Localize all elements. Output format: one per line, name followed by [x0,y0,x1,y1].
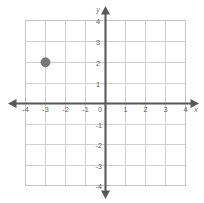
y-tick-label: 4 [96,17,100,26]
x-axis-left-arrow-icon [8,99,17,108]
y-tick-label: 1 [96,80,100,89]
origin-label: 0 [98,105,102,114]
coordinate-grid-svg: -4 -3 -2 -1 0 1 2 3 4 4 3 2 1 -1 -2 -3 -… [0,0,204,203]
y-tick-label: 2 [96,59,100,68]
y-tick-label: -3 [96,162,102,171]
x-axis-name: x [193,106,198,113]
y-tick-label: -4 [96,182,102,191]
data-point-marker [41,58,50,67]
x-tick-label: 2 [144,105,148,114]
y-axis-bottom-arrow-icon [101,191,110,200]
x-tick-label: -4 [22,105,28,114]
y-tick-label: -2 [96,141,102,150]
y-axis-top-arrow-icon [101,6,110,15]
y-tick-label: -1 [96,121,102,130]
x-tick-label: -2 [62,105,68,114]
x-tick-label: -1 [82,105,88,114]
y-axis-name: y [95,6,100,14]
x-tick-label: 3 [164,105,168,114]
x-tick-label: 1 [124,105,128,114]
coordinate-plane: -4 -3 -2 -1 0 1 2 3 4 4 3 2 1 -1 -2 -3 -… [0,0,204,203]
x-tick-label: 4 [184,105,188,114]
x-axis [8,99,199,108]
y-tick-label: 3 [96,38,100,47]
x-tick-label: -3 [42,105,48,114]
